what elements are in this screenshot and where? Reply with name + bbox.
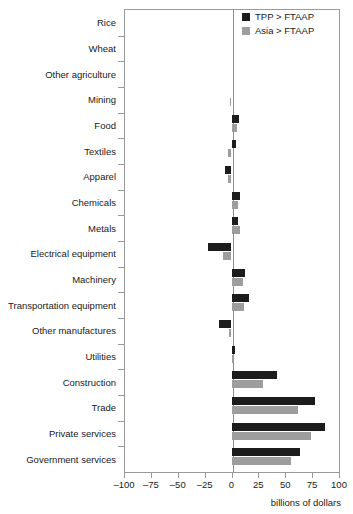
bar-group (124, 87, 339, 113)
y-axis-label: Machinery (72, 274, 116, 285)
y-axis-label: Apparel (83, 171, 116, 182)
y-axis-label: Other manufactures (32, 325, 116, 336)
bar (229, 329, 231, 337)
x-axis-title: billions of dollars (0, 497, 341, 508)
y-axis-label: Mining (88, 94, 116, 105)
y-axis-label: Electrical equipment (30, 248, 116, 259)
bar-group (124, 61, 339, 87)
x-axis-tick (205, 473, 206, 478)
y-axis-label: Transportation equipment (8, 300, 116, 311)
x-axis-tick (124, 473, 125, 478)
x-axis-tick (232, 473, 233, 478)
x-axis-tick (258, 473, 259, 478)
bar (228, 149, 231, 157)
bar-group (124, 190, 339, 216)
bar-group (124, 241, 339, 267)
legend-item[interactable]: TPP > FTAAP (242, 11, 314, 23)
x-axis-tick (339, 473, 340, 478)
bar-group (124, 318, 339, 344)
bar (232, 226, 241, 234)
bar (232, 371, 277, 379)
bar (232, 269, 246, 277)
bar (232, 140, 236, 148)
chart-legend: TPP > FTAAPAsia > FTAAP (242, 11, 314, 39)
x-axis-tick-label: 100 (319, 479, 353, 490)
bar (208, 243, 232, 251)
y-axis-label: Chemicals (72, 197, 116, 208)
bar (225, 166, 231, 174)
bar (232, 201, 238, 209)
bar-group (124, 292, 339, 318)
y-axis-label: Private services (49, 428, 116, 439)
bar (232, 278, 244, 286)
y-axis-label: Metals (88, 223, 116, 234)
bar-group (124, 267, 339, 293)
x-axis-tick (178, 473, 179, 478)
x-axis-tick (285, 473, 286, 478)
bars-layer (124, 10, 339, 472)
legend-swatch-icon (242, 27, 250, 35)
bar (232, 192, 241, 200)
bar (232, 432, 312, 440)
y-axis-label: Other agriculture (45, 69, 116, 80)
bar (232, 294, 249, 302)
bar-group (124, 138, 339, 164)
bar-group (124, 446, 339, 472)
bar-group (124, 421, 339, 447)
bar (223, 252, 232, 260)
bar-group (124, 344, 339, 370)
bar (232, 457, 291, 465)
y-axis-label: Rice (97, 17, 116, 28)
y-axis-label: Utilities (85, 351, 116, 362)
legend-label: TPP > FTAAP (255, 11, 314, 23)
bar (232, 355, 234, 363)
bar-group (124, 113, 339, 139)
bar-group (124, 369, 339, 395)
y-axis-label: Trade (92, 402, 116, 413)
bar (232, 217, 238, 225)
bar (232, 406, 299, 414)
bar (228, 175, 231, 183)
bar-group (124, 164, 339, 190)
y-axis-label: Food (94, 120, 116, 131)
bar-group (124, 215, 339, 241)
bar (232, 397, 316, 405)
y-axis-label: Wheat (89, 43, 116, 54)
bar (232, 380, 263, 388)
y-axis-label: Construction (63, 377, 116, 388)
y-axis-label: Government services (26, 454, 116, 465)
y-axis-label: Textiles (84, 146, 116, 157)
bar (232, 448, 301, 456)
bar-group (124, 395, 339, 421)
bar (232, 346, 235, 354)
legend-label: Asia > FTAAP (255, 25, 314, 37)
x-axis-tick (312, 473, 313, 478)
bar-chart: RiceWheatOther agricultureMiningFoodText… (0, 0, 353, 514)
bar (232, 303, 245, 311)
legend-item[interactable]: Asia > FTAAP (242, 25, 314, 37)
bar-group (124, 36, 339, 62)
bar (230, 98, 231, 106)
bar (232, 423, 326, 431)
x-axis-tick (151, 473, 152, 478)
legend-swatch-icon (242, 13, 250, 21)
bar (219, 320, 232, 328)
bar (232, 124, 237, 132)
y-axis-labels: RiceWheatOther agricultureMiningFoodText… (0, 10, 124, 472)
bar (232, 115, 240, 123)
